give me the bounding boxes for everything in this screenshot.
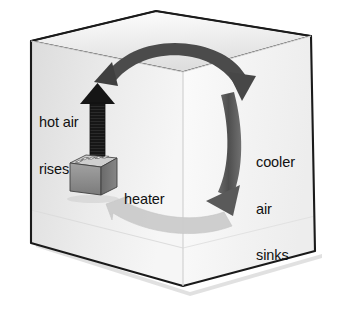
convection-diagram: hot air rises heater cooler air sinks	[0, 0, 340, 309]
label-cooler-air-sinks: cooler air sinks	[256, 124, 295, 295]
label-hot-air-line1: hot air	[39, 115, 79, 131]
label-heater-text: heater	[124, 192, 165, 208]
label-heater: heater	[124, 161, 165, 239]
label-cooler-air-line2: air	[256, 202, 295, 218]
label-hot-air-rises: hot air rises	[39, 84, 79, 208]
label-cooler-air-line3: sinks	[256, 248, 295, 264]
label-cooler-air-line1: cooler	[256, 155, 295, 171]
label-hot-air-line2: rises	[39, 162, 79, 178]
